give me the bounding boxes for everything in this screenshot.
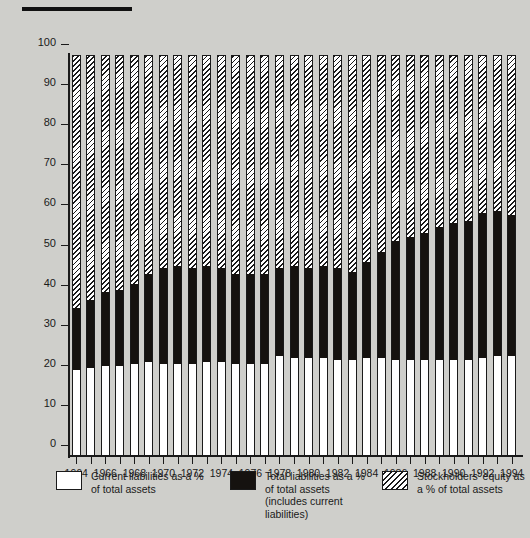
bar-column	[333, 55, 342, 456]
x-axis-tick-mark	[192, 457, 193, 464]
bar-segment-total-liabilities	[290, 266, 299, 358]
bar-column	[217, 55, 226, 456]
bar-segment-stockholders-equity	[377, 55, 386, 251]
bar-column	[202, 55, 211, 456]
x-axis-tick-mark	[91, 457, 92, 464]
bar-segment-total-liabilities	[464, 221, 473, 359]
y-axis-tick-label: 70	[44, 156, 56, 168]
x-axis-tick-mark	[468, 457, 469, 464]
legend-item-stockholders-equity: Stockholders' equity as a % of total ass…	[382, 470, 527, 495]
bar-segment-current-liabilities	[231, 364, 240, 456]
x-axis-tick-mark	[236, 457, 237, 464]
bar-column	[348, 55, 357, 456]
bar-segment-current-liabilities	[217, 362, 226, 456]
bar-column	[188, 55, 197, 456]
x-axis-tick-mark	[381, 457, 382, 464]
bar-segment-current-liabilities	[406, 360, 415, 456]
bar-segment-current-liabilities	[115, 366, 124, 456]
bar-column	[231, 55, 240, 456]
bar-column	[406, 55, 415, 456]
legend-label-total-liabilities: Total liabilities as a % of total assets…	[265, 470, 365, 520]
bar-column	[362, 55, 371, 456]
bar-column	[377, 55, 386, 456]
bar-segment-current-liabilities	[86, 368, 95, 456]
bar-column	[435, 55, 444, 456]
x-axis-tick-mark	[294, 457, 295, 464]
x-axis-tick-mark	[352, 457, 353, 464]
bar-segment-total-liabilities	[202, 266, 211, 362]
bar-column	[304, 55, 313, 456]
y-axis-tick-label: 60	[44, 196, 56, 208]
bar-segment-stockholders-equity	[231, 55, 240, 274]
bar-segment-current-liabilities	[101, 366, 110, 456]
x-axis-tick-mark	[178, 457, 179, 464]
x-axis-tick-mark	[149, 457, 150, 464]
legend-label-current-liabilities: Current liabilities as a % of total asse…	[91, 470, 211, 495]
bar-column	[86, 55, 95, 456]
bar-segment-current-liabilities	[173, 364, 182, 456]
x-axis-tick-mark	[439, 457, 440, 464]
bar-segment-total-liabilities	[319, 266, 328, 358]
bar-segment-total-liabilities	[144, 274, 153, 362]
bar-segment-current-liabilities	[319, 358, 328, 456]
bar-segment-current-liabilities	[202, 362, 211, 456]
x-axis-tick-mark	[425, 457, 426, 464]
y-axis-tick-mark	[61, 365, 69, 366]
bar-segment-total-liabilities	[348, 272, 357, 360]
bar-segment-stockholders-equity	[304, 55, 313, 268]
x-axis-tick-mark	[76, 457, 77, 464]
bar-segment-current-liabilities	[348, 360, 357, 456]
bar-segment-current-liabilities	[333, 360, 342, 456]
bar-segment-current-liabilities	[130, 364, 139, 456]
bar-column	[144, 55, 153, 456]
x-axis-tick-mark	[396, 457, 397, 464]
bar-segment-stockholders-equity	[275, 55, 284, 268]
bar-segment-current-liabilities	[464, 360, 473, 456]
bar-segment-current-liabilities	[159, 364, 168, 456]
bar-column	[319, 55, 328, 456]
bar-segment-current-liabilities	[391, 360, 400, 456]
chart-legend: Current liabilities as a % of total asse…	[14, 470, 516, 528]
bar-column	[464, 55, 473, 456]
x-axis-tick-mark	[309, 457, 310, 464]
bar-segment-current-liabilities	[290, 358, 299, 456]
x-axis-tick-mark	[134, 457, 135, 464]
legend-swatch-current-liabilities	[56, 471, 82, 490]
x-axis-tick-mark	[483, 457, 484, 464]
bar-segment-stockholders-equity	[507, 55, 516, 215]
bar-segment-stockholders-equity	[217, 55, 226, 268]
bar-segment-current-liabilities	[449, 360, 458, 456]
bar-column	[115, 55, 124, 456]
x-axis-tick-mark	[512, 457, 513, 464]
bar-column	[72, 55, 81, 456]
bar-segment-total-liabilities	[275, 268, 284, 356]
legend-item-total-liabilities: Total liabilities as a % of total assets…	[230, 470, 365, 520]
bar-column	[130, 55, 139, 456]
y-axis-tick-mark	[61, 124, 69, 125]
bar-column	[159, 55, 168, 456]
x-axis-tick-mark	[105, 457, 106, 464]
x-axis-tick-mark	[207, 457, 208, 464]
y-axis-tick-label: 80	[44, 116, 56, 128]
bar-segment-stockholders-equity	[290, 55, 299, 266]
bar-column	[493, 55, 502, 456]
bar-segment-stockholders-equity	[144, 55, 153, 274]
bar-segment-stockholders-equity	[435, 55, 444, 227]
bar-segment-total-liabilities	[304, 268, 313, 358]
bar-segment-current-liabilities	[478, 358, 487, 456]
bar-segment-stockholders-equity	[478, 55, 487, 213]
bar-segment-current-liabilities	[507, 356, 516, 456]
y-axis-tick-label: 20	[44, 357, 56, 369]
plot-frame: 0102030405060708090100 19641966196819701…	[14, 22, 516, 462]
bar-segment-stockholders-equity	[420, 55, 429, 233]
top-rule-divider	[22, 7, 132, 11]
bar-segment-current-liabilities	[362, 358, 371, 456]
x-axis-tick-mark	[279, 457, 280, 464]
bar-segment-stockholders-equity	[449, 55, 458, 223]
bar-column	[391, 55, 400, 456]
y-axis-tick-mark	[61, 44, 69, 45]
bar-segment-total-liabilities	[231, 274, 240, 364]
bar-segment-total-liabilities	[188, 268, 197, 364]
bar-segment-stockholders-equity	[72, 55, 81, 308]
bar-segment-stockholders-equity	[493, 55, 502, 211]
